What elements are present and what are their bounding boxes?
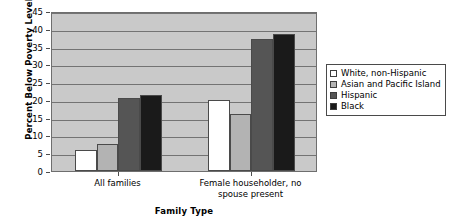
y-axis-tick-mark: [46, 12, 50, 13]
y-axis-tick-mark: [46, 101, 50, 102]
bar: [273, 34, 295, 171]
y-axis-tick-mark: [46, 119, 50, 120]
plot-area: [51, 12, 317, 172]
x-axis-tick-mark: [251, 172, 252, 176]
y-axis-tick-label: 35: [32, 43, 43, 52]
x-axis-title: Family Type: [51, 206, 317, 216]
y-axis-tick-label: 10: [32, 132, 43, 141]
bar: [140, 95, 162, 171]
y-axis-tick-label: 0: [38, 168, 43, 177]
bar-group: [75, 13, 163, 171]
legend-item-label: Black: [341, 101, 364, 112]
y-axis-tick-mark: [46, 136, 50, 137]
legend-swatch-icon: [330, 70, 337, 77]
bars-layer: [52, 13, 316, 171]
x-axis-tick-label: Female householder, no spouse present: [191, 178, 311, 200]
y-axis-tick-mark: [46, 83, 50, 84]
legend-item-label: White, non-Hispanic: [341, 68, 426, 79]
y-axis-tick-label: 25: [32, 79, 43, 88]
y-axis-tick-label: 5: [38, 150, 43, 159]
legend-item-label: Hispanic: [341, 90, 377, 101]
legend-swatch-icon: [330, 92, 337, 99]
bar: [75, 150, 97, 171]
bar: [118, 98, 140, 171]
y-axis-tick-mark: [46, 65, 50, 66]
y-axis-tick-label: 30: [32, 61, 43, 70]
y-axis-tick-mark: [46, 172, 50, 173]
y-axis-tick-labels: 454035302520151050: [22, 12, 46, 172]
legend-item[interactable]: Asian and Pacific Island: [330, 79, 441, 90]
legend-swatch-icon: [330, 103, 337, 110]
y-axis-tick-label: 45: [32, 8, 43, 17]
bar: [230, 114, 252, 171]
y-axis-tick-mark: [46, 154, 50, 155]
bar-group: [208, 13, 296, 171]
y-axis-tick-label: 15: [32, 114, 43, 123]
y-axis-tick-mark: [46, 30, 50, 31]
bar: [97, 144, 119, 171]
legend-item[interactable]: Hispanic: [330, 90, 441, 101]
y-axis-tick-label: 40: [32, 26, 43, 35]
bar-chart: Percent Below Poverty Level 454035302520…: [0, 0, 452, 223]
legend-swatch-icon: [330, 81, 337, 88]
legend-item-label: Asian and Pacific Island: [341, 79, 441, 90]
bar: [208, 100, 230, 171]
legend-item[interactable]: Black: [330, 101, 441, 112]
y-axis-tick-label: 20: [32, 97, 43, 106]
y-axis-tick-mark: [46, 48, 50, 49]
legend: White, non-HispanicAsian and Pacific Isl…: [326, 64, 446, 116]
x-axis-tick-mark: [118, 172, 119, 176]
legend-item[interactable]: White, non-Hispanic: [330, 68, 441, 79]
bar: [251, 39, 273, 171]
x-axis-tick-label: All families: [68, 178, 168, 189]
